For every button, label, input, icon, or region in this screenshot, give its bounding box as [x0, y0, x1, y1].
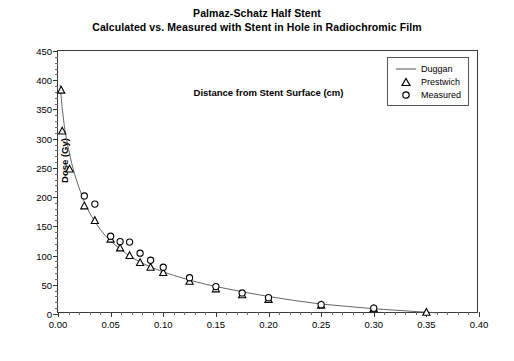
y-tick-label: 350 — [22, 104, 52, 115]
x-tick-label: 0.20 — [259, 319, 278, 330]
data-point-circle — [117, 238, 123, 244]
data-line — [60, 85, 437, 313]
data-point-circle — [92, 201, 98, 207]
y-tick-label: 300 — [22, 133, 52, 144]
data-point-circle — [148, 257, 154, 263]
data-point-triangle — [81, 202, 88, 209]
data-point-circle — [371, 305, 377, 311]
x-tick-label: 0.15 — [207, 319, 226, 330]
data-point-triangle — [58, 86, 65, 93]
x-tick-mark — [479, 312, 480, 317]
y-tick-label: 450 — [22, 46, 52, 57]
circle-marker-icon — [393, 90, 419, 100]
data-point-circle — [186, 275, 192, 281]
data-point-triangle — [147, 263, 154, 270]
y-tick-label: 200 — [22, 192, 52, 203]
plot-area: Dose (Gy) Distance from Stent Surface (c… — [57, 50, 478, 313]
legend-item-prestwich: Prestwich — [393, 75, 461, 88]
data-point-circle — [213, 283, 219, 289]
legend-item-measured: Measured — [393, 88, 461, 101]
y-tick-label: 400 — [22, 75, 52, 86]
legend-label-prestwich: Prestwich — [419, 77, 460, 87]
data-point-triangle — [136, 259, 143, 266]
data-point-circle — [126, 239, 132, 245]
x-tick-label: 0.40 — [470, 319, 489, 330]
x-tick-label: 0.25 — [312, 319, 331, 330]
data-point-circle — [108, 233, 114, 239]
chart-subtitle: Calculated vs. Measured with Stent in Ho… — [0, 20, 514, 34]
triangle-marker-icon — [393, 77, 419, 87]
legend-label-duggan: Duggan — [419, 64, 453, 74]
x-tick-label: 0.30 — [365, 319, 384, 330]
series-duggan — [60, 85, 437, 313]
series-prestwich — [58, 86, 430, 315]
data-point-circle — [81, 193, 87, 199]
y-tick-label: 100 — [22, 250, 52, 261]
data-point-circle — [239, 290, 245, 296]
x-tick-label: 0.35 — [417, 319, 436, 330]
x-tick-label: 0.00 — [49, 319, 68, 330]
y-tick-label: 250 — [22, 162, 52, 173]
legend-item-duggan: Duggan — [393, 62, 461, 75]
x-tick-label: 0.05 — [101, 319, 120, 330]
data-point-circle — [265, 295, 271, 301]
chart-figure: Palmaz-Schatz Half Stent Calculated vs. … — [0, 0, 514, 361]
y-tick-label: 50 — [22, 279, 52, 290]
legend-label-measured: Measured — [419, 90, 461, 100]
chart-title: Palmaz-Schatz Half Stent — [0, 6, 514, 20]
series-measured — [81, 193, 377, 311]
y-tick-label: 150 — [22, 221, 52, 232]
x-tick-label: 0.10 — [154, 319, 173, 330]
chart-legend: Duggan Prestwich Measured — [387, 57, 469, 106]
data-point-circle — [318, 302, 324, 308]
y-tick-label: 0 — [22, 309, 52, 320]
data-point-circle — [160, 264, 166, 270]
chart-title-block: Palmaz-Schatz Half Stent Calculated vs. … — [0, 6, 514, 34]
line-icon — [393, 65, 419, 73]
data-point-triangle — [126, 252, 133, 259]
data-point-circle — [137, 250, 143, 256]
